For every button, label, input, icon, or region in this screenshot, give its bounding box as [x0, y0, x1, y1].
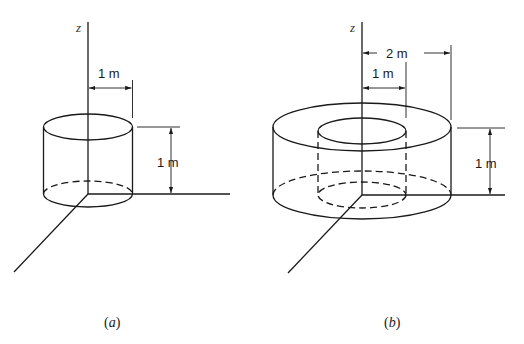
x-axis: [14, 194, 88, 272]
cylinder-bottom-front: [44, 194, 133, 207]
z-axis-label: z: [349, 20, 355, 35]
caption-b: (b): [384, 315, 401, 331]
radius-label: 1 m: [98, 66, 120, 81]
diagram-canvas: z 1 m 1 m (a) z: [0, 0, 524, 344]
height-label: 1 m: [475, 156, 497, 171]
outer-radius-label: 2 m: [386, 46, 408, 61]
z-axis-label: z: [75, 20, 81, 35]
inner-radius-label: 1 m: [372, 66, 394, 81]
x-axis: [288, 195, 362, 273]
height-label: 1 m: [157, 155, 179, 170]
outer-bottom-front: [273, 195, 451, 219]
figure-b-cylindrical-shell: z 2 m 1 m 1 m (b): [273, 20, 505, 331]
figure-a-solid-cylinder: z 1 m 1 m (a): [14, 20, 230, 331]
caption-a: (a): [104, 315, 121, 331]
